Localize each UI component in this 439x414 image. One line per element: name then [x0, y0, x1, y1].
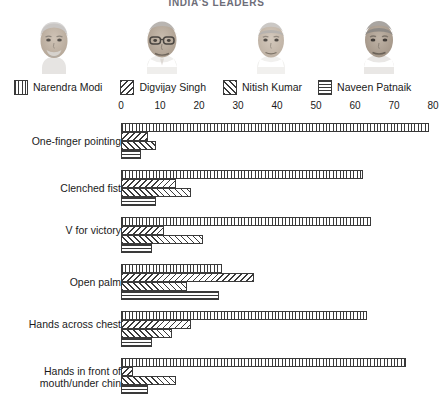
bar-nitish-kumar[interactable]: [121, 329, 172, 338]
x-tick-60: 60: [349, 100, 360, 111]
bar-naveen-patnaik[interactable]: [121, 385, 148, 394]
legend-label-modi: Narendra Modi: [33, 82, 102, 93]
bar-group: Open palm: [0, 263, 433, 310]
category-label: V for victory: [6, 225, 121, 237]
bar-digvijay-singh[interactable]: [121, 320, 191, 329]
bar-naveen-patnaik[interactable]: [121, 338, 152, 347]
category-label: Clenched fist: [6, 183, 121, 195]
legend-swatch-modi-icon: [14, 80, 28, 95]
chart-title: INDIA'S LEADERS: [0, 0, 433, 8]
bar-naveen-patnaik[interactable]: [121, 197, 156, 206]
legend-swatch-kumar-icon: [223, 80, 237, 95]
x-tick-80: 80: [427, 100, 438, 111]
bar-narendra-modi[interactable]: [121, 170, 363, 179]
category-label: One-finger pointing: [6, 136, 121, 148]
bar-group: Clenched fist: [0, 169, 433, 216]
bar-stack: [121, 357, 433, 401]
bar-stack: [121, 122, 433, 169]
legend-label-kumar: Nitish Kumar: [242, 82, 302, 93]
bar-nitish-kumar[interactable]: [121, 282, 187, 291]
chart-legend: Narendra Modi Digvijay Singh Nitish Kuma…: [0, 78, 433, 96]
x-tick-70: 70: [388, 100, 399, 111]
legend-swatch-singh-icon: [120, 80, 134, 95]
bar-nitish-kumar[interactable]: [121, 188, 191, 197]
bar-digvijay-singh[interactable]: [121, 179, 176, 188]
portrait-digvijay-singh: [134, 10, 190, 74]
bar-nitish-kumar[interactable]: [121, 235, 203, 244]
legend-item-kumar: Nitish Kumar: [223, 80, 302, 95]
legend-item-singh: Digvijay Singh: [120, 80, 206, 95]
bar-stack: [121, 310, 433, 357]
bar-digvijay-singh[interactable]: [121, 132, 148, 141]
bar-nitish-kumar[interactable]: [121, 141, 156, 150]
portrait-row: [0, 10, 433, 74]
portrait-nitish-kumar: [243, 10, 299, 74]
x-tick-20: 20: [193, 100, 204, 111]
category-label: Open palm: [6, 277, 121, 289]
bar-narendra-modi[interactable]: [121, 123, 429, 132]
bar-narendra-modi[interactable]: [121, 358, 406, 367]
bar-groups: One-finger pointingClenched fistV for vi…: [0, 122, 433, 401]
bar-group: Hands across chest: [0, 310, 433, 357]
bar-digvijay-singh[interactable]: [121, 226, 164, 235]
bar-group: Hands in front of mouth/under chin: [0, 357, 433, 401]
legend-label-patnaik: Naveen Patnaik: [337, 82, 411, 93]
bar-group: One-finger pointing: [0, 122, 433, 169]
portrait-narendra-modi: [26, 10, 82, 74]
bar-digvijay-singh[interactable]: [121, 273, 254, 282]
bar-chart-plot: 01020304050607080 One-finger pointingCle…: [0, 100, 433, 414]
category-label: Hands across chest: [6, 319, 121, 331]
category-label: Hands in front of mouth/under chin: [6, 366, 121, 389]
legend-item-modi: Narendra Modi: [14, 80, 102, 95]
x-tick-0: 0: [118, 100, 124, 111]
bar-narendra-modi[interactable]: [121, 217, 371, 226]
x-tick-40: 40: [271, 100, 282, 111]
legend-label-singh: Digvijay Singh: [139, 82, 206, 93]
bar-stack: [121, 263, 433, 310]
legend-swatch-patnaik-icon: [318, 80, 332, 95]
bar-naveen-patnaik[interactable]: [121, 150, 141, 159]
legend-item-patnaik: Naveen Patnaik: [318, 80, 411, 95]
x-axis-tick-labels: 01020304050607080: [0, 100, 433, 116]
x-tick-10: 10: [154, 100, 165, 111]
x-tick-30: 30: [232, 100, 243, 111]
portrait-naveen-patnaik: [351, 10, 407, 74]
bar-stack: [121, 216, 433, 263]
bar-nitish-kumar[interactable]: [121, 376, 176, 385]
bar-stack: [121, 169, 433, 216]
bar-naveen-patnaik[interactable]: [121, 291, 219, 300]
bar-digvijay-singh[interactable]: [121, 367, 133, 376]
bar-group: V for victory: [0, 216, 433, 263]
x-tick-50: 50: [310, 100, 321, 111]
bar-narendra-modi[interactable]: [121, 311, 367, 320]
bar-naveen-patnaik[interactable]: [121, 244, 152, 253]
bar-narendra-modi[interactable]: [121, 264, 222, 273]
